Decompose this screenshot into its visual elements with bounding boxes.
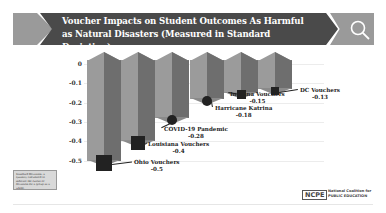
value-label: -0.18 xyxy=(215,112,272,119)
category-label: COVID-19 Pandemic xyxy=(164,126,228,133)
y-tick-label: -0.4 xyxy=(56,137,82,144)
y-tick-label: -0.5 xyxy=(56,157,82,164)
data-label: DC Vouchers-0.13 xyxy=(300,87,340,101)
bar-covid-19-pandemic xyxy=(155,60,189,118)
pointer-arrow xyxy=(145,143,147,145)
y-tick-label: -0.1 xyxy=(56,79,82,86)
ncpe-logo: NCPE xyxy=(302,190,327,200)
dc-shape-icon xyxy=(271,87,279,95)
bar-harricane-katrina xyxy=(190,60,224,99)
data-label: Louisiana Vouchers-0.4 xyxy=(148,141,209,155)
ncpe-logo-text: National Coalition for PUBLIC EDUCATION xyxy=(328,189,371,198)
grid-line xyxy=(84,161,324,162)
louisiana-state-icon xyxy=(131,136,145,150)
value-label: -0.5 xyxy=(134,166,180,173)
value-label: -0.13 xyxy=(300,94,340,101)
chart-title: Voucher Impacts on Student Outcomes As H… xyxy=(62,15,312,54)
ohio-state-icon xyxy=(96,155,112,171)
value-label: -0.15 xyxy=(230,98,285,105)
y-tick-label: -0.2 xyxy=(56,99,82,106)
category-label: Louisiana Vouchers xyxy=(148,141,209,148)
bar-dc-vouchers xyxy=(258,60,292,89)
ncpe-line-1: National Coalition for xyxy=(328,189,371,194)
category-label: Harricane Katrina xyxy=(215,105,272,112)
data-label: COVID-19 Pandemic-0.28 xyxy=(164,126,228,140)
footer-divider xyxy=(13,204,373,205)
search-icon xyxy=(349,19,371,41)
value-label: -0.28 xyxy=(164,133,228,140)
footnote-box: Standard Deviation: a quantity calculate… xyxy=(13,170,57,190)
data-label: Ohio Vouchers-0.5 xyxy=(134,159,180,173)
footnote-text: Standard Deviation: a quantity calculate… xyxy=(16,173,50,190)
bar-indiana-vouchers xyxy=(224,60,258,93)
data-label: Harricane Katrina-0.18 xyxy=(215,105,272,119)
ncpe-line-2: PUBLIC EDUCATION xyxy=(328,194,371,199)
value-label: -0.4 xyxy=(148,148,209,155)
y-tick-label: 0 xyxy=(56,60,82,67)
y-tick-label: -0.3 xyxy=(56,118,82,125)
bar-ohio-vouchers xyxy=(87,60,121,161)
category-label: Ohio Vouchers xyxy=(134,159,180,166)
category-label: DC Vouchers xyxy=(300,87,340,94)
bar-louisiana-vouchers xyxy=(121,60,155,141)
